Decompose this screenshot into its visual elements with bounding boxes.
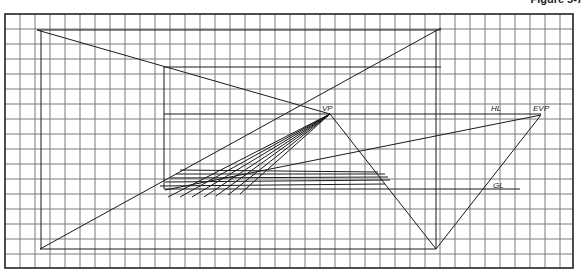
hl-label: HL xyxy=(491,104,501,113)
gl-label: GL xyxy=(493,181,504,190)
perspective-diagram: VP HL EVP GL xyxy=(0,0,587,277)
evp-label: EVP xyxy=(533,104,550,113)
construction-lines xyxy=(37,28,541,249)
vp-label: VP xyxy=(322,104,333,113)
